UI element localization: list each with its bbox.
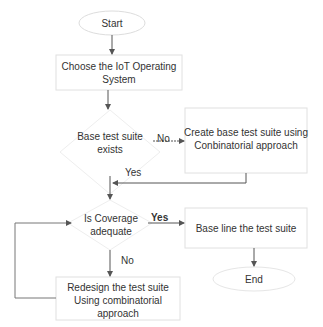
edge-label-no-create: No (157, 133, 170, 144)
base-exists-node: Base test suite exists (72, 128, 148, 158)
redesign-node: Redesign the test suite Using combinator… (58, 281, 178, 319)
coverage-node: Is Coverage adequate (76, 211, 146, 239)
end-node: End (213, 272, 295, 286)
edge-label-yes-coverage: Yes (151, 212, 168, 223)
baseline-node: Base line the test suite (187, 220, 305, 236)
edge-label-yes-exists: Yes (125, 167, 141, 178)
start-node: Start (79, 16, 145, 30)
edge-label-no-coverage: No (121, 255, 134, 266)
choose-os-node: Choose the IoT Operating System (58, 57, 180, 88)
create-base-node: Create base test suite using Conbinatori… (183, 124, 309, 154)
